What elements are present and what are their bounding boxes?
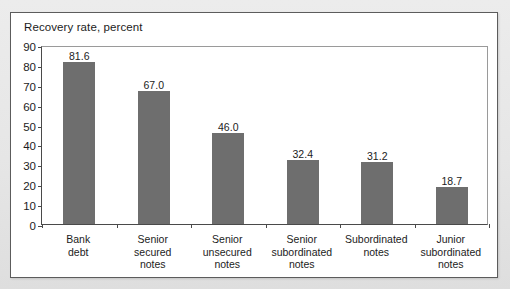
category-label-line: subordinated	[408, 246, 494, 259]
x-axis-tick	[42, 224, 43, 228]
x-axis-category-label: Seniorunsecurednotes	[184, 233, 270, 271]
x-axis-tick	[489, 224, 490, 228]
bar	[287, 160, 319, 224]
category-label-line: secured	[110, 246, 196, 259]
category-label-line: debt	[35, 246, 121, 259]
bar	[212, 133, 244, 224]
y-axis-tick-label: 80	[23, 61, 42, 73]
x-axis-tick	[340, 224, 341, 228]
bar	[138, 91, 170, 224]
y-axis-tick-label: 20	[23, 180, 42, 192]
x-axis-category-label: Bankdebt	[35, 233, 121, 258]
x-axis-category-label: Seniorsecurednotes	[110, 233, 196, 271]
y-axis-tick-label: 70	[23, 81, 42, 93]
y-axis-tick-label: 90	[23, 41, 42, 53]
bar	[436, 187, 468, 224]
category-label-line: subordinated	[259, 246, 345, 259]
chart-card: Recovery rate, percent 90807060504030201…	[10, 12, 498, 278]
y-axis-tick-label: 30	[23, 160, 42, 172]
category-label-line: unsecured	[184, 246, 270, 259]
x-axis-tick	[266, 224, 267, 228]
bar-value-label: 31.2	[367, 150, 387, 164]
bar-value-label: 81.6	[69, 50, 89, 64]
x-axis-category-label: Seniorsubordinatednotes	[259, 233, 345, 271]
category-label-line: Junior	[408, 233, 494, 246]
x-axis-tick	[415, 224, 416, 228]
x-axis-category-label: Juniorsubordinatednotes	[408, 233, 494, 271]
category-label-line: notes	[259, 258, 345, 271]
figure-root: Recovery rate, percent 90807060504030201…	[0, 0, 510, 289]
category-label-line: notes	[110, 258, 196, 271]
y-axis-tick-label: 10	[23, 200, 42, 212]
category-label-line: Senior	[184, 233, 270, 246]
category-label-line: Bank	[35, 233, 121, 246]
category-label-line: Senior	[259, 233, 345, 246]
category-label-line: Subordinated	[333, 233, 419, 246]
y-axis-tick-label: 0	[30, 220, 42, 232]
y-axis-tick-label: 40	[23, 140, 42, 152]
y-axis-tick-label: 50	[23, 121, 42, 133]
y-axis-tick-label: 60	[23, 101, 42, 113]
bar-value-label: 32.4	[293, 148, 313, 162]
x-axis-category-label: Subordinatednotes	[333, 233, 419, 258]
x-axis-tick	[191, 224, 192, 228]
bar-value-label: 67.0	[144, 79, 164, 93]
x-axis-tick	[117, 224, 118, 228]
chart-title: Recovery rate, percent	[24, 21, 143, 33]
category-label-line: Senior	[110, 233, 196, 246]
bar-value-label: 18.7	[442, 175, 462, 189]
bar-value-label: 46.0	[218, 121, 238, 135]
category-label-line: notes	[333, 246, 419, 259]
bar	[361, 162, 393, 224]
bar	[63, 62, 95, 224]
category-label-line: notes	[184, 258, 270, 271]
plot-area: 9080706050403020100 81.667.046.032.431.2…	[41, 46, 488, 225]
category-label-line: notes	[408, 258, 494, 271]
